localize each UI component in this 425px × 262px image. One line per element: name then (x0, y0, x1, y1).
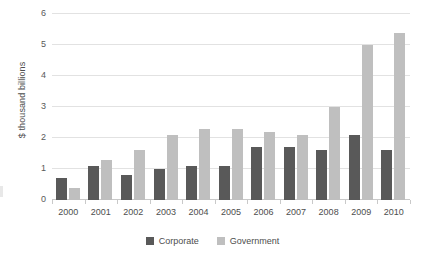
x-axis-tick (117, 200, 118, 204)
x-axis-tick (410, 200, 411, 204)
bar-corporate-2005 (219, 166, 230, 200)
bars-layer: 2000200120022003200420052006200720082009… (52, 14, 410, 200)
x-tick-label: 2003 (150, 207, 183, 217)
y-tick-label: 3 (41, 101, 46, 111)
y-axis-title: $ thousand billions (14, 0, 30, 200)
bar-government-2005 (232, 129, 243, 200)
legend-item-government[interactable]: Government (217, 236, 280, 246)
y-tick-label: 2 (41, 132, 46, 142)
legend-swatch-icon (146, 237, 154, 245)
bar-corporate-2007 (284, 147, 295, 200)
bar-government-2009 (362, 45, 373, 200)
y-tick-label: 1 (41, 163, 46, 173)
x-axis-tick (247, 200, 248, 204)
bar-group: 2006 (247, 14, 280, 200)
bar-group: 2003 (150, 14, 183, 200)
bar-group: 2000 (52, 14, 85, 200)
bar-group: 2001 (85, 14, 118, 200)
x-tick-label: 2001 (85, 207, 118, 217)
bar-group: 2002 (117, 14, 150, 200)
bar-government-2007 (297, 135, 308, 200)
y-tick-label: 6 (41, 8, 46, 18)
bar-group: 2004 (182, 14, 215, 200)
bar-corporate-2002 (121, 175, 132, 200)
bar-corporate-2001 (88, 166, 99, 200)
bar-corporate-2000 (56, 178, 67, 200)
legend: CorporateGovernment (0, 236, 425, 246)
bar-government-2004 (199, 129, 210, 200)
bar-chart: $ thousand billions 0123456 200020012002… (0, 0, 425, 262)
bar-corporate-2009 (349, 135, 360, 200)
bar-corporate-2010 (381, 150, 392, 200)
x-axis-tick (150, 200, 151, 204)
x-tick-label: 2009 (345, 207, 378, 217)
x-axis-tick (280, 200, 281, 204)
bar-corporate-2004 (186, 166, 197, 200)
x-axis-tick (377, 200, 378, 204)
legend-swatch-icon (217, 237, 225, 245)
bar-corporate-2008 (316, 150, 327, 200)
x-tick-label: 2006 (247, 207, 280, 217)
bar-government-2002 (134, 150, 145, 200)
bar-corporate-2006 (251, 147, 262, 200)
x-tick-label: 2004 (182, 207, 215, 217)
legend-label: Government (230, 236, 280, 246)
bar-group: 2007 (280, 14, 313, 200)
plot-area: 0123456 20002001200220032004200520062007… (52, 14, 410, 200)
x-tick-label: 2010 (377, 207, 410, 217)
bar-government-2006 (264, 132, 275, 200)
legend-label: Corporate (159, 236, 199, 246)
y-tick-label: 5 (41, 39, 46, 49)
bar-government-2008 (329, 107, 340, 200)
x-tick-label: 2005 (215, 207, 248, 217)
bar-corporate-2003 (154, 169, 165, 200)
x-axis-tick (215, 200, 216, 204)
bar-government-2003 (167, 135, 178, 200)
x-tick-label: 2002 (117, 207, 150, 217)
y-axis-title-label: $ thousand billions (17, 62, 27, 138)
x-axis-tick (312, 200, 313, 204)
y-tick-label: 0 (41, 194, 46, 204)
bar-government-2000 (69, 188, 80, 200)
bar-government-2010 (394, 33, 405, 200)
y-tick-label: 4 (41, 70, 46, 80)
x-axis-tick (182, 200, 183, 204)
bar-group: 2008 (312, 14, 345, 200)
x-axis-tick (85, 200, 86, 204)
legend-item-corporate[interactable]: Corporate (146, 236, 199, 246)
x-tick-label: 2008 (312, 207, 345, 217)
edge-artifact (0, 186, 3, 197)
x-tick-label: 2000 (52, 207, 85, 217)
bar-group: 2010 (377, 14, 410, 200)
x-axis-tick (345, 200, 346, 204)
bar-group: 2005 (215, 14, 248, 200)
x-tick-label: 2007 (280, 207, 313, 217)
bar-group: 2009 (345, 14, 378, 200)
bar-government-2001 (101, 160, 112, 200)
x-axis-tick (52, 200, 53, 204)
